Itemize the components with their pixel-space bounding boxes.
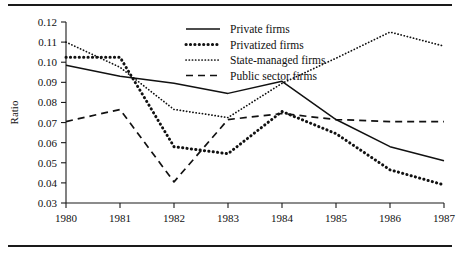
- chart-figure: 0.030.040.050.060.070.080.090.100.110.12…: [0, 0, 460, 253]
- legend-item-private-firms: Private firms: [186, 23, 290, 35]
- legend-label: Private firms: [230, 23, 290, 35]
- y-tick-label: 0.11: [38, 36, 57, 48]
- legend-item-state-managed-firms: State-managed firms: [186, 54, 326, 67]
- y-tick-label: 0.06: [38, 137, 58, 149]
- x-tick-label: 1986: [379, 212, 402, 224]
- x-tick-label: 1981: [109, 212, 131, 224]
- ratio-line-chart: 0.030.040.050.060.070.080.090.100.110.12…: [0, 0, 460, 253]
- y-tick-label: 0.04: [38, 177, 58, 189]
- legend-item-privatized-firms: Privatized firms: [186, 39, 304, 51]
- legend-label: Public sector firms: [230, 70, 317, 82]
- x-tick-label: 1984: [271, 212, 294, 224]
- x-tick-label: 1985: [325, 212, 348, 224]
- bottom-rule: [8, 245, 452, 247]
- y-tick-label: 0.12: [38, 16, 57, 28]
- y-tick-label: 0.05: [38, 157, 58, 169]
- top-rule: [8, 4, 452, 6]
- y-tick-label: 0.03: [38, 197, 58, 209]
- legend-label: State-managed firms: [230, 54, 326, 67]
- x-tick-label: 1982: [163, 212, 185, 224]
- y-tick-label: 0.07: [38, 117, 58, 129]
- y-tick-label: 0.10: [38, 56, 58, 68]
- legend-item-public-sector-firms: Public sector firms: [186, 70, 317, 82]
- legend-label: Privatized firms: [230, 39, 304, 51]
- y-tick-label: 0.09: [38, 76, 58, 88]
- x-tick-label: 1987: [433, 212, 456, 224]
- y-axis-title: Ratio: [8, 100, 20, 124]
- y-tick-label: 0.08: [38, 96, 58, 108]
- x-tick-label: 1980: [55, 212, 78, 224]
- x-tick-label: 1983: [217, 212, 240, 224]
